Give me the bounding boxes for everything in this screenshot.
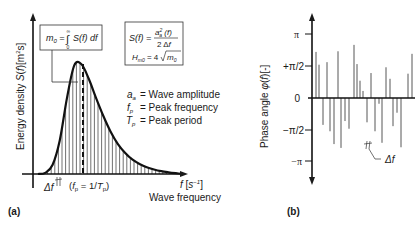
panel-b-phase-angles: Phase angle φ(f)[-] π +π/2 0 −π/2 −π Δf … — [259, 17, 415, 217]
tick-neg-half-pi: −π/2 — [283, 125, 305, 136]
legend-symbol-peak-frequency: fp — [127, 102, 134, 114]
legend-symbol-amplitude: aa — [127, 89, 137, 101]
delta-f-label: Δf — [43, 182, 55, 193]
integrand: S(f) df — [73, 33, 99, 43]
y-axis-label: Energy density S(f)[m2s] — [15, 42, 26, 150]
x-axis-unit-label: f [s−1] — [180, 179, 203, 190]
phase-bars — [316, 45, 412, 148]
legend-symbol-peak-period: Tp — [126, 115, 136, 127]
delta-f-marker — [55, 177, 62, 186]
legend-text-amplitude: = Wave amplitude — [140, 89, 220, 100]
phase-y-axis-label: Phase angle φ(f)[-] — [259, 65, 270, 148]
x-axis-label: Wave frequency — [149, 192, 221, 203]
figure-canvas: m0 = ∞ ∫ 0 S(f) df S(f) = a2a (f) 2 Δf H… — [0, 0, 415, 225]
panel-b-label: (b) — [287, 206, 300, 217]
phase-delta-f-marker — [364, 141, 381, 159]
tick-neg-pi: −π — [291, 156, 302, 167]
spectrum-formula-denominator: 2 Δf — [157, 40, 172, 49]
phase-delta-f-label: Δf — [384, 154, 396, 165]
spectrum-formula-lhs: S(f) = — [129, 33, 151, 43]
legend-text-peak-frequency: = Peak frequency — [140, 102, 218, 113]
integral-lower-limit: 0 — [67, 44, 70, 50]
tick-half-pi: +π/2 — [283, 61, 305, 72]
tick-pi: π — [294, 29, 299, 40]
panel-a-label: (a) — [8, 206, 20, 217]
legend-text-peak-period: = Peak period — [140, 115, 202, 126]
spectrum-formula-numerator: a2a (f) — [155, 27, 172, 38]
tick-zero: 0 — [294, 93, 300, 104]
hm0-formula: Hm0 = 4 — [132, 53, 159, 63]
panel-a-energy-spectrum: m0 = ∞ ∫ 0 S(f) df S(f) = a2a (f) 2 Δf H… — [8, 17, 221, 217]
peak-frequency-label: (fp = 1/Tp) — [69, 180, 109, 192]
symbol-legend: aa = Wave amplitude fp = Peak frequency … — [126, 89, 220, 127]
